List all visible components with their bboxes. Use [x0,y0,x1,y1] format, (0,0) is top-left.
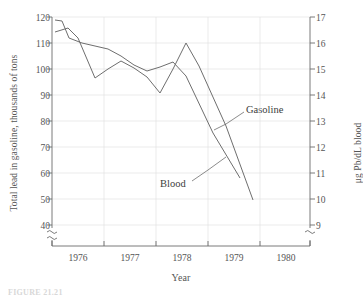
figure-caption: FIGURE 21.21 [8,288,63,297]
series-line-blood [55,28,253,200]
y-axis-right [305,17,315,246]
series-line-gasoline [55,20,240,178]
y-axis-left [47,17,52,228]
horizontal-gridlines [52,17,310,225]
x-axis [52,241,310,246]
leader-line-blood [192,157,226,181]
